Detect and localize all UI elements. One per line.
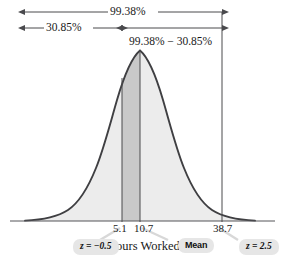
annotation-left-percent: 30.85% [46,22,81,34]
tick-label-10-7: 10.7 [134,223,153,234]
annotation-difference-percent: 99.38% − 30.85% [129,36,212,48]
mean-badge: Mean [178,238,214,253]
z-value-left-badge: z = −0.5 [73,239,119,255]
normal-distribution-figure: 99.38% 30.85% 99.38% − 30.85% 5.1 10.7 3… [0,0,285,259]
tick-label-38-7: 38.7 [213,223,232,234]
tick-label-5-1: 5.1 [113,223,127,234]
z-value-right-badge: z = 2.5 [239,239,279,255]
annotation-total-percent: 99.38% [110,6,145,18]
